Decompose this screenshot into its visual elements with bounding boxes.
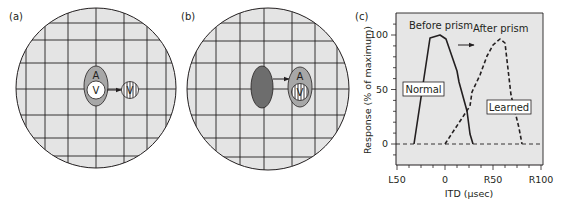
x-tick-l50: L50 (388, 174, 405, 185)
auditory-label: A (297, 71, 304, 82)
panel-a-label: (a) (9, 11, 23, 22)
legend-normal-label: Normal (405, 84, 441, 95)
shifted-visual-label: V (127, 85, 134, 96)
original-auditory-field-ellipse (251, 66, 273, 108)
y-tick-0: 0 (382, 138, 388, 149)
y-axis-label: Response (% of maximum) (362, 26, 373, 154)
x-tick-r50: R50 (484, 174, 503, 185)
panel-a: (a) A V V (0, 0, 200, 180)
y-tick-50: 50 (376, 84, 388, 95)
panel-c-label: (c) (355, 11, 368, 22)
visual-label: V (93, 85, 100, 96)
auditory-label: A (93, 70, 100, 81)
x-tick-r100: R100 (529, 174, 554, 185)
annotation-before-prism: Before prism (409, 20, 473, 31)
y-ticks (391, 24, 396, 155)
figure-canvas: (a) A V V (b) (0, 0, 570, 206)
visual-label: V (297, 87, 304, 98)
y-tick-100: 100 (370, 29, 388, 40)
panel-b-label: (b) (181, 11, 195, 22)
x-tick-0: 0 (442, 174, 448, 185)
panel-b: (b) A V (170, 0, 370, 180)
annotation-after-prism: After prism (473, 23, 528, 34)
legend-learned-label: Learned (489, 102, 529, 113)
x-axis-label: ITD (µsec) (445, 188, 493, 199)
panel-c-chart: (c) Response (% of maximum) 100 50 0 (355, 11, 553, 199)
x-ticks (397, 165, 541, 170)
